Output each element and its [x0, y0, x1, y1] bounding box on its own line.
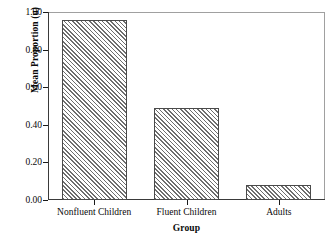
y-axis-tick-label: 0.00	[12, 195, 42, 205]
x-axis-tick-mark	[187, 200, 188, 205]
x-axis-tick-label: Fluent Children	[140, 206, 232, 218]
y-axis-tick-label: 0.80	[12, 45, 42, 55]
bar	[246, 185, 311, 200]
bar-chart: Mean Proportion (u) 0.000.200.400.600.80…	[0, 0, 335, 243]
y-axis-tick-labels: 0.000.200.400.600.801.00	[10, 0, 42, 243]
x-axis-tick-mark	[279, 200, 280, 205]
y-axis-tick-mark	[43, 200, 48, 201]
x-axis-tick-mark	[94, 200, 95, 205]
x-axis-tick-label: Adults	[233, 206, 325, 218]
bars-layer	[48, 12, 325, 200]
bar	[154, 108, 219, 200]
bar	[62, 20, 127, 200]
y-axis-tick-label: 0.40	[12, 120, 42, 130]
x-axis-title: Group	[48, 223, 325, 233]
y-axis-tick-label: 0.20	[12, 157, 42, 167]
y-axis-tick-label: 1.00	[12, 7, 42, 17]
x-axis-tick-label: Nonfluent Children	[48, 206, 140, 218]
y-axis-tick-label: 0.60	[12, 82, 42, 92]
